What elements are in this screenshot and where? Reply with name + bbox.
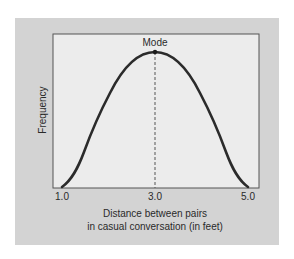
x-tick-1: 1.0 xyxy=(55,191,69,202)
plot-area xyxy=(53,34,259,188)
y-axis-label: Frequency xyxy=(37,86,48,133)
x-axis-label-line2: in casual conversation (in feet) xyxy=(87,220,223,233)
x-tick-5: 5.0 xyxy=(241,191,255,202)
x-axis-label-line1: Distance between pairs xyxy=(87,207,223,220)
x-tick-3: 3.0 xyxy=(148,191,162,202)
mode-label: Mode xyxy=(142,37,167,48)
x-axis-label: Distance between pairs in casual convers… xyxy=(87,207,223,233)
mode-point xyxy=(153,50,157,54)
